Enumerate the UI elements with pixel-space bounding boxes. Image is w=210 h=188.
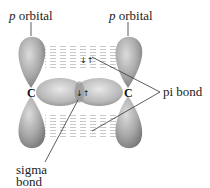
left-p-orbital-lower-lobe (18, 96, 45, 148)
left-p-orbital-upper-lobe (18, 37, 45, 88)
orbital-diagram-svg: C C ↓↑ ↓↑ p orbital p orbital pi bond si… (0, 0, 210, 188)
p-orbital-left-label: p orbital (8, 8, 53, 23)
right-p-orbital-upper-lobe (115, 37, 142, 88)
pi-bond-diagram: C C ↓↑ ↓↑ p orbital p orbital pi bond si… (0, 0, 210, 188)
sigma-electron-pair: ↓↑ (76, 89, 89, 98)
right-p-orbital-lower-lobe (115, 96, 142, 148)
carbon-left-label: C (27, 86, 36, 100)
p-orbital-right-label: p orbital (108, 8, 153, 23)
pi-bond-label: pi bond (163, 84, 203, 99)
pi-overlap-bottom (45, 113, 120, 139)
pi-electron-pair: ↓↑ (80, 56, 93, 65)
carbon-right-label: C (124, 86, 133, 100)
sigma-label-line2: bond (16, 174, 43, 188)
